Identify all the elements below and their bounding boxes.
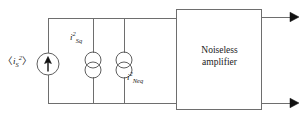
source-current-open-bracket: 〈 xyxy=(3,56,13,66)
amplifier-box-label: Noiseless amplifier xyxy=(177,45,262,68)
source-current-subscript: S xyxy=(16,61,19,68)
shot-noise-subscript: Sq xyxy=(76,37,83,44)
amplifier-noise-label: i2Neq xyxy=(127,73,143,82)
shot-noise-source-lower-circle xyxy=(85,62,101,78)
output-top-arrowhead-icon xyxy=(290,12,299,22)
amplifier-label-line2: amplifier xyxy=(177,57,262,69)
output-bottom-arrowhead-icon xyxy=(290,98,299,108)
amplifier-noise-subscript: Neq xyxy=(133,77,143,84)
source-current-close-bracket: 〉 xyxy=(22,56,32,66)
circuit-diagram: 〈iS2〉 i2Sq i2Neq Noiseless amplifier xyxy=(0,0,305,118)
source-symbol-group xyxy=(37,53,59,75)
source-current-label: 〈iS2〉 xyxy=(3,57,32,67)
shot-noise-source-symbol-group xyxy=(85,52,101,78)
amplifier-label-line1: Noiseless xyxy=(177,45,262,57)
shot-noise-label: i2Sq xyxy=(70,33,82,42)
